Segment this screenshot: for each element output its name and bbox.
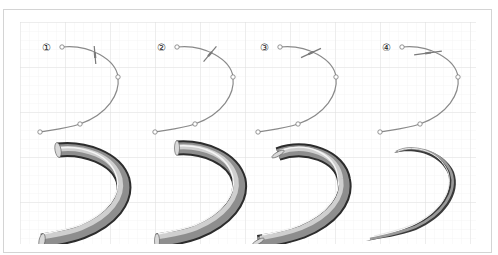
step-label: ③	[260, 42, 269, 53]
control-point	[400, 45, 404, 49]
control-point	[256, 130, 260, 134]
control-point	[278, 45, 282, 49]
control-point	[38, 130, 42, 134]
modeling-viewport: ① ②	[20, 22, 476, 244]
control-point	[60, 45, 64, 49]
viewport-canvas: ① ②	[20, 22, 476, 244]
control-point	[418, 122, 422, 126]
control-point	[175, 45, 179, 49]
step-label: ②	[157, 42, 166, 53]
control-point	[296, 122, 300, 126]
control-point	[153, 130, 157, 134]
control-point	[334, 75, 338, 79]
control-point	[378, 130, 382, 134]
control-point	[231, 75, 235, 79]
control-point	[78, 122, 82, 126]
grid-background	[20, 22, 476, 244]
step-label: ④	[382, 42, 391, 53]
step-label: ①	[42, 42, 51, 53]
control-point	[456, 75, 460, 79]
control-point	[116, 75, 120, 79]
control-point	[193, 122, 197, 126]
